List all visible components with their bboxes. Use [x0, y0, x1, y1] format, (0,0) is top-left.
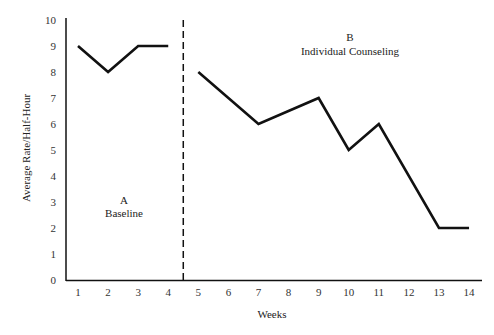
y-tick-label: 4: [51, 170, 57, 182]
y-tick-label: 2: [51, 222, 57, 234]
y-tick-label: 0: [51, 274, 57, 286]
y-tick-label: 8: [51, 66, 57, 78]
y-axis-ticks: 012345678910: [45, 14, 57, 286]
line-chart: 012345678910 1234567891011121314 A Basel…: [0, 0, 494, 335]
x-tick-label: 10: [343, 286, 355, 298]
x-tick-label: 5: [196, 286, 202, 298]
x-tick-label: 7: [256, 286, 262, 298]
phase-a-name: Baseline: [105, 207, 143, 219]
x-tick-label: 3: [135, 286, 141, 298]
phase-a-letter: A: [120, 194, 128, 206]
phase-b-name: Individual Counseling: [301, 45, 400, 57]
x-tick-label: 4: [165, 286, 171, 298]
y-tick-label: 9: [51, 40, 57, 52]
phase-b-letter: B: [346, 31, 353, 43]
y-tick-label: 1: [51, 248, 57, 260]
data-series: [78, 46, 469, 228]
y-axis-label: Average Rate/Half-Hour: [20, 94, 32, 203]
x-tick-label: 11: [374, 286, 385, 298]
x-axis-label: Weeks: [257, 308, 286, 320]
x-tick-label: 12: [403, 286, 414, 298]
x-tick-label: 8: [286, 286, 292, 298]
x-tick-label: 1: [75, 286, 81, 298]
y-tick-label: 3: [51, 196, 57, 208]
y-tick-label: 7: [51, 92, 57, 104]
x-axis-ticks: 1234567891011121314: [75, 286, 475, 298]
x-tick-label: 6: [226, 286, 232, 298]
y-tick-label: 5: [51, 144, 57, 156]
series-line: [78, 46, 168, 72]
x-tick-label: 14: [464, 286, 476, 298]
x-tick-label: 13: [433, 286, 445, 298]
y-tick-label: 6: [51, 118, 57, 130]
series-line: [198, 72, 469, 228]
x-tick-label: 9: [316, 286, 322, 298]
y-tick-label: 10: [45, 14, 57, 26]
x-tick-label: 2: [105, 286, 111, 298]
